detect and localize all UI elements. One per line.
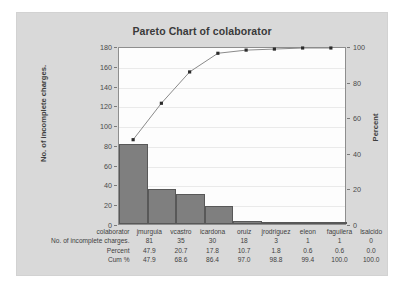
table-cell: 81	[134, 236, 166, 245]
line-marker	[329, 46, 332, 49]
cumulative-line-series	[119, 48, 345, 224]
y-axis-right-tick-label: 20	[353, 185, 379, 194]
plot-area	[118, 47, 346, 225]
y-axis-right-tick-label: 40	[353, 150, 379, 159]
line-marker	[188, 70, 191, 73]
screenshot-root: Pareto Chart of colaborator No. of incom…	[0, 0, 403, 287]
y-axis-right-tickmark	[347, 189, 350, 190]
line-marker	[132, 138, 135, 141]
table-cell: 0	[355, 236, 387, 245]
table-cell: 47.9	[134, 246, 166, 255]
chart-title: Pareto Chart of colaborator	[17, 25, 387, 37]
y-axis-left-tickmark	[114, 166, 117, 167]
table-cell: 100.0	[355, 255, 387, 264]
y-axis-left-tick-label: 120	[88, 102, 112, 111]
line-marker	[245, 49, 248, 52]
y-axis-left-tick-label: 100	[88, 122, 112, 131]
line-marker	[301, 46, 304, 49]
table-cell: 99.4	[292, 255, 324, 264]
table-cell: 97.0	[228, 255, 260, 264]
chart-panel: Pareto Chart of colaborator No. of incom…	[17, 13, 387, 275]
table-cell: eleon	[292, 227, 324, 236]
table-cell: 0.6	[324, 246, 356, 255]
y-axis-left-tickmark	[114, 185, 117, 186]
y-axis-left-title: No. of incomplete charges.	[39, 44, 48, 184]
y-axis-left-tickmark	[114, 106, 117, 107]
table-row-label: colaborator	[17, 227, 134, 236]
y-axis-left-tick-label: 40	[88, 181, 112, 190]
y-axis-left-tickmark	[114, 225, 117, 226]
table-cell: 1	[292, 236, 324, 245]
y-axis-left-tickmark	[114, 47, 117, 48]
table-cell: 30	[197, 236, 229, 245]
line-marker	[216, 52, 219, 55]
table-cell: vcastro	[165, 227, 197, 236]
table-cell: 20.7	[165, 246, 197, 255]
y-axis-left-tick-label: 160	[88, 63, 112, 72]
y-axis-right-tickmark	[347, 83, 350, 84]
line-marker	[160, 102, 163, 105]
table-row-categories: colaboratorjmurguiavcastroicardonaoruizj…	[17, 227, 387, 236]
table-cell: 18	[228, 236, 260, 245]
y-axis-left-tick-label: 60	[88, 162, 112, 171]
y-axis-right-tickmark	[347, 118, 350, 119]
table-cell: 35	[165, 236, 197, 245]
y-axis-left-tickmark	[114, 87, 117, 88]
table-cell: faguilera	[324, 227, 356, 236]
table-row-label: Percent	[17, 246, 134, 255]
table-cell: 0.6	[292, 246, 324, 255]
table-row-label: No. of incomplete charges.	[17, 236, 134, 245]
table-cell: 100.0	[324, 255, 356, 264]
data-table: colaboratorjmurguiavcastroicardonaoruizj…	[17, 227, 387, 265]
line-marker	[273, 47, 276, 50]
table-cell: jrodriguez	[260, 227, 292, 236]
table-cell: 1	[324, 236, 356, 245]
table-cell: jmurguia	[134, 227, 166, 236]
y-axis-left-tickmark	[114, 126, 117, 127]
y-axis-left-tickmark	[114, 67, 117, 68]
y-axis-left-tickmark	[114, 205, 117, 206]
table-row-counts: No. of incomplete charges.813530183110	[17, 236, 387, 245]
y-axis-right-tickmark	[347, 154, 350, 155]
y-axis-right-tickmark	[347, 225, 350, 226]
y-axis-right-title: Percent	[371, 83, 380, 173]
table-cell: oruiz	[228, 227, 260, 236]
table-cell: 47.9	[134, 255, 166, 264]
table-cell: 98.8	[260, 255, 292, 264]
table-row-percent: Percent47.920.717.810.71.80.60.60.0	[17, 246, 387, 255]
y-axis-right-tick-label: 80	[353, 79, 379, 88]
table-cell: 3	[260, 236, 292, 245]
y-axis-right-tickmark	[347, 47, 350, 48]
y-axis-left-tick-label: 140	[88, 83, 112, 92]
y-axis-left-tick-label: 20	[88, 201, 112, 210]
y-axis-right-tick-label: 100	[353, 43, 379, 52]
y-axis-left-tick-label: 80	[88, 142, 112, 151]
table-cell: 68.6	[165, 255, 197, 264]
y-axis-right-tick-label: 60	[353, 114, 379, 123]
table-row-label: Cum %	[17, 255, 134, 264]
table-cell: icardona	[197, 227, 229, 236]
table-cell: 86.4	[197, 255, 229, 264]
y-axis-left-tick-label: 180	[88, 43, 112, 52]
table-cell: 10.7	[228, 246, 260, 255]
y-axis-left-tickmark	[114, 146, 117, 147]
table-cell: lsalcido	[355, 227, 387, 236]
table-cell: 17.8	[197, 246, 229, 255]
table-cell: 0.0	[355, 246, 387, 255]
table-row-cum-percent: Cum %47.968.686.497.098.899.4100.0100.0	[17, 255, 387, 264]
table-cell: 1.8	[260, 246, 292, 255]
